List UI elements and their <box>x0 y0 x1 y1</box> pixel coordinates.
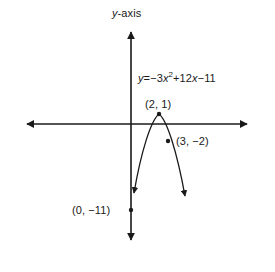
equation-label: y=−3x2+12x−11 <box>138 72 216 85</box>
point-3-minus-2-dot <box>166 139 170 143</box>
equation-term3-constant: −11 <box>198 72 216 84</box>
point-vertex-dot <box>157 112 161 116</box>
parabola-right-branch <box>159 114 185 196</box>
point-y-intercept-dot <box>129 208 133 212</box>
parabola-figure: y-axis y=−3x2+12x−11 (2, 1) (3, −2) (0, … <box>0 0 275 272</box>
point-label-vertex: (2, 1) <box>145 98 171 111</box>
y-axis-label: y-axis <box>112 7 141 20</box>
point-label-y-intercept: (0, −11) <box>72 204 110 217</box>
y-axis-label-suffix: -axis <box>118 7 142 19</box>
point-label-3-minus-2: (3, −2) <box>176 135 209 148</box>
equation-term1-coefficient: −3 <box>150 72 163 84</box>
graph-canvas <box>0 0 275 272</box>
parabola-left-branch <box>134 114 159 193</box>
equation-term2-coefficient: +12 <box>173 72 192 84</box>
